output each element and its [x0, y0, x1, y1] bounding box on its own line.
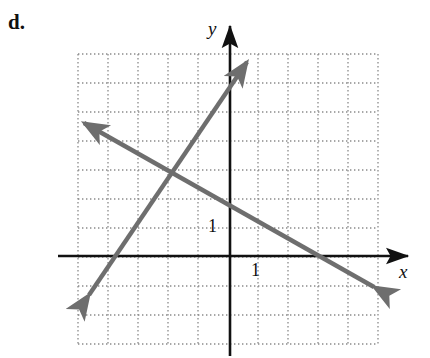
grid-horizontal-lines [78, 54, 378, 344]
graph-figure: d. [0, 0, 430, 358]
rising-line [89, 62, 247, 295]
y-axis-tick-label-one: 1 [208, 216, 217, 237]
coordinate-plane-graph [0, 0, 430, 358]
x-axis-label: x [399, 261, 407, 283]
y-axis-label: y [208, 18, 216, 40]
x-axis-tick-label-one: 1 [251, 260, 260, 281]
